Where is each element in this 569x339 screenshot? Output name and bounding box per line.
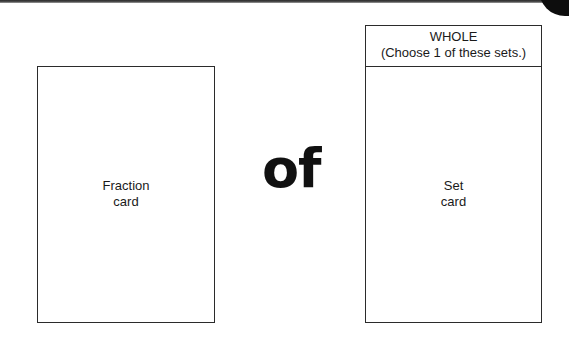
whole-header-title: WHOLE <box>366 29 541 45</box>
top-border-rule <box>0 0 569 3</box>
whole-header-instruction: (Choose 1 of these sets.) <box>366 45 541 61</box>
set-card-slot: WHOLE (Choose 1 of these sets.) Set card <box>365 25 542 323</box>
fraction-card-label-line1: Fraction <box>38 178 214 194</box>
page-corner-tab <box>539 0 569 16</box>
set-card-label-line2: card <box>366 194 541 210</box>
fraction-card-label: Fraction card <box>38 178 214 210</box>
whole-header: WHOLE (Choose 1 of these sets.) <box>366 26 541 67</box>
of-connector-word: of <box>262 139 321 199</box>
fraction-card-slot: Fraction card <box>37 66 215 323</box>
set-card-label-line1: Set <box>366 178 541 194</box>
fraction-card-label-line2: card <box>38 194 214 210</box>
set-card-label: Set card <box>366 178 541 210</box>
